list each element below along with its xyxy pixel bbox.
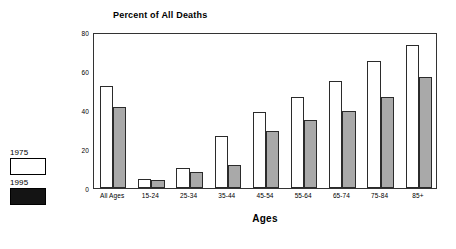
x-axis-tick-25-34: 25-34 (180, 192, 197, 199)
bar-1975-65-74 (329, 81, 342, 188)
bar-1995-45-54 (266, 131, 279, 188)
bar-1975-45-54 (253, 112, 266, 188)
bar-1975-all-ages (100, 86, 113, 188)
chart-legend: 1975 1995 (10, 148, 56, 208)
y-axis-tick-80: 80 (73, 30, 89, 37)
x-axis-tick-55-64: 55-64 (295, 192, 312, 199)
bars-layer (94, 34, 436, 188)
bar-1975-25-34 (176, 168, 189, 188)
bar-1995-75-84 (381, 97, 394, 188)
y-axis-tick-20: 20 (73, 147, 89, 154)
legend-label-1995: 1995 (10, 178, 56, 188)
bar-chart-figure: 1975 1995 Percent of All Deaths 02040608… (0, 0, 456, 249)
x-axis-tick-75-84: 75-84 (371, 192, 388, 199)
x-axis-tick-65-74: 65-74 (333, 192, 350, 199)
y-axis-tick-0: 0 (73, 186, 89, 193)
legend-entry-1995: 1995 (10, 178, 56, 205)
bar-1995-25-34 (190, 172, 203, 188)
bar-1995-55-64 (304, 120, 317, 188)
x-axis-tick-35-44: 35-44 (218, 192, 235, 199)
x-axis-tick-15-24: 15-24 (142, 192, 159, 199)
bar-1995-35-44 (228, 165, 241, 188)
x-axis-tick-labels: All Ages15-2425-3435-4445-5455-6465-7475… (93, 192, 437, 204)
x-axis-tick-45-54: 45-54 (256, 192, 273, 199)
bar-1995-all-ages (113, 107, 126, 188)
x-axis-tick-85-: 85+ (412, 192, 423, 199)
x-axis-tick-all-ages: All Ages (100, 192, 124, 199)
plot-area (93, 33, 437, 189)
x-axis-title: Ages (93, 213, 437, 224)
y-axis-tick-60: 60 (73, 69, 89, 76)
bar-1975-75-84 (367, 61, 380, 188)
bar-1975-15-24 (138, 179, 151, 188)
bar-1975-85- (406, 45, 419, 188)
legend-entry-1975: 1975 (10, 148, 56, 175)
bar-1975-55-64 (291, 97, 304, 188)
bar-1995-85- (419, 77, 432, 188)
bar-1995-15-24 (151, 180, 164, 188)
legend-swatch-1975 (10, 158, 46, 175)
bar-1975-35-44 (215, 136, 228, 188)
chart-title: Percent of All Deaths (113, 10, 207, 20)
y-axis-tick-40: 40 (73, 108, 89, 115)
bar-1995-65-74 (342, 111, 355, 188)
legend-label-1975: 1975 (10, 148, 56, 158)
legend-swatch-1995 (10, 188, 46, 205)
